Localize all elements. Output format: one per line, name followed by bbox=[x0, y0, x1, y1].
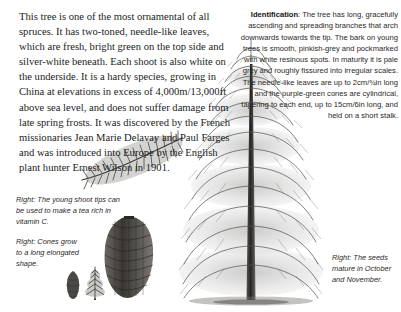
caption-cones: Right: Cones grow to a long elongated sh… bbox=[16, 236, 82, 270]
large-cone-illustration bbox=[100, 215, 158, 300]
identification-heading: Identification bbox=[251, 10, 298, 19]
caption-shoot: Right: The young shoot tips can be used … bbox=[16, 194, 120, 228]
identification-body: The tree has long, gracefully ascending … bbox=[241, 10, 398, 120]
caption-cones-lead: Right: bbox=[16, 237, 35, 246]
body-paragraph: This tree is one of the most ornamental … bbox=[19, 9, 234, 175]
small-cone-illustration bbox=[64, 270, 82, 300]
caption-seeds-lead: Right: bbox=[332, 253, 351, 262]
identification-column: Identification: The tree has long, grace… bbox=[230, 9, 398, 122]
small-sapling-illustration bbox=[84, 265, 106, 300]
caption-seeds: Right: The seeds mature in October and N… bbox=[332, 252, 398, 286]
caption-shoot-lead: Right: bbox=[16, 195, 35, 204]
identification-paragraph: Identification: The tree has long, grace… bbox=[230, 9, 398, 122]
book-page: This tree is one of the most ornamental … bbox=[0, 0, 401, 312]
body-text-column: This tree is one of the most ornamental … bbox=[19, 9, 234, 175]
